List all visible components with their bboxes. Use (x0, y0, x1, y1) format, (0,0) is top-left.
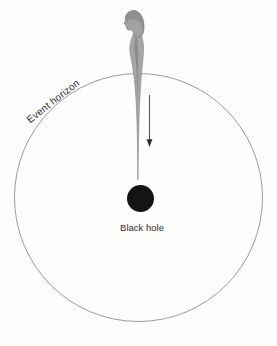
eye-dot (127, 21, 128, 22)
black-hole-diagram-artwork (0, 0, 277, 346)
falling-person-icon (124, 11, 144, 180)
black-hole-dot (127, 185, 154, 212)
diagram-canvas: Event horizon Black hole (0, 0, 277, 346)
down-arrow-icon (147, 95, 153, 147)
